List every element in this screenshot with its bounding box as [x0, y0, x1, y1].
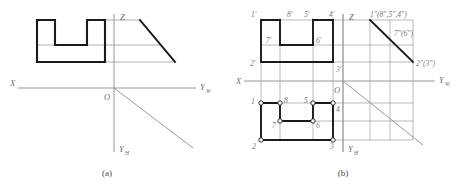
vertex-marker-2 — [259, 138, 263, 142]
vertex-marker-1 — [259, 101, 263, 105]
label-x-axis-b: X — [235, 76, 242, 86]
u-shape-path — [37, 20, 105, 62]
label-w-2-group: 2"(3") — [416, 59, 436, 68]
label-h-6: 6 — [316, 121, 320, 130]
label-v-4: 4' — [329, 10, 335, 19]
label-v-2: 2' — [250, 59, 256, 68]
label-z-axis-b: Z — [349, 12, 354, 22]
label-h-7: 7 — [272, 121, 277, 130]
vertex-marker-6 — [311, 119, 315, 123]
fig-a-w-projection — [140, 20, 175, 62]
label-yw-subscript: W — [206, 88, 212, 94]
label-v-6: 6' — [316, 36, 322, 45]
vertex-marker-8 — [278, 101, 282, 105]
vertex-marker-7 — [278, 119, 282, 123]
label-v-5: 5' — [304, 10, 310, 19]
figure-pair-canvas: X Z Y W O Y H (a) — [0, 0, 461, 186]
vertex-marker-5 — [311, 101, 315, 105]
label-w-7-group: 7"(6") — [394, 29, 414, 38]
label-h-8: 8 — [284, 96, 288, 105]
label-yh-subscript-b: H — [353, 150, 359, 156]
caption-figure-a: (a) — [102, 168, 112, 178]
label-x-axis: X — [9, 78, 16, 88]
label-origin-b: O — [334, 85, 340, 95]
axis-45-diagonal-b — [343, 81, 423, 145]
fig-b-construction-lines — [261, 14, 413, 152]
fig-a-v-projection-outline — [37, 20, 105, 62]
label-h-1: 1 — [251, 97, 255, 106]
label-origin: O — [104, 92, 110, 102]
figure-b: 1' 8' 5' 4' 7' 6' 2' 3' 1 8 5 4 7 6 2 3 … — [230, 0, 461, 186]
caption-figure-b: (b) — [338, 168, 349, 178]
label-v-1: 1' — [251, 10, 257, 19]
u-shape-path-v — [261, 20, 333, 62]
label-h-2: 2 — [252, 142, 256, 151]
fig-b-w-projection — [370, 20, 413, 62]
label-v-3: 3' — [335, 65, 342, 74]
label-yw-subscript-b: W — [445, 81, 451, 87]
slant-edge-b — [370, 20, 413, 62]
label-z-axis: Z — [120, 12, 125, 22]
figure-a: X Z Y W O Y H (a) — [0, 0, 230, 186]
label-v-7: 7' — [266, 36, 272, 45]
label-h-5: 5 — [304, 96, 308, 105]
axis-45-diagonal — [114, 88, 193, 148]
fig-b-v-projection-outline — [261, 20, 333, 62]
label-yh-subscript: H — [124, 150, 130, 156]
label-w-1-group: 1"(8",5",4") — [370, 10, 407, 19]
label-h-4: 4 — [336, 105, 340, 114]
vertex-marker-4 — [331, 101, 335, 105]
slant-edge — [140, 20, 175, 62]
fig-a-axes — [18, 14, 196, 152]
label-v-8: 8' — [287, 10, 293, 19]
label-h-3: 3 — [329, 142, 334, 151]
